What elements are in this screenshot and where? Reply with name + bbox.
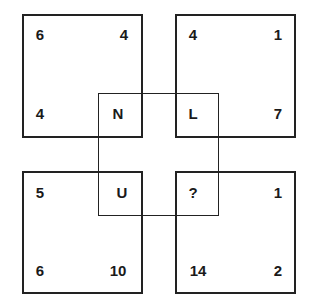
cell-bottom-right-tr: 1 [263,184,293,202]
cell-top-left-bl: 4 [25,105,55,123]
cell-top-left-br: N [103,105,133,123]
cell-top-left-tr: 4 [109,26,139,44]
cell-top-right-tr: 1 [263,26,293,44]
cell-bottom-left-br: 10 [103,262,133,280]
cell-top-right-br: 7 [263,105,293,123]
cell-bottom-left-bl: 6 [25,262,55,280]
cell-top-right-bl: L [178,105,208,123]
cell-bottom-left-tl: 5 [25,184,55,202]
cell-bottom-right-bl: 14 [183,262,213,280]
cell-top-left-tl: 6 [25,26,55,44]
cell-bottom-right-tl: ? [178,184,208,202]
cell-bottom-left-tr: U [107,184,137,202]
cell-bottom-right-br: 2 [263,262,293,280]
cell-top-right-tl: 4 [178,26,208,44]
